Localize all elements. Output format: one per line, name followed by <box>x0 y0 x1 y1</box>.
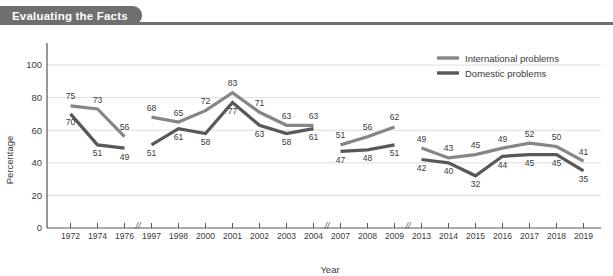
data-label: 40 <box>444 166 454 176</box>
data-label: 56 <box>120 122 130 132</box>
y-tick-label: 0 <box>37 222 42 233</box>
data-label: 47 <box>336 155 346 165</box>
x-tick-label: 2002 <box>250 231 269 241</box>
data-label: 73 <box>93 95 103 105</box>
x-tick-label: 2000 <box>196 231 215 241</box>
data-label: 35 <box>579 174 589 184</box>
data-label: 45 <box>552 158 562 168</box>
axis-break-mark: // <box>134 221 142 231</box>
data-label: 32 <box>471 179 481 189</box>
data-label: 61 <box>174 132 184 142</box>
data-label: 83 <box>228 78 238 88</box>
data-label: 49 <box>498 134 508 144</box>
data-label: 58 <box>201 137 211 147</box>
legend-label-domestic: Domestic problems <box>465 68 547 79</box>
x-tick-label: 1997 <box>142 231 161 241</box>
data-label: 77 <box>228 106 238 116</box>
chart-canvas: 020406080100 197219741976199719982000200… <box>0 25 613 276</box>
y-tick-label: 60 <box>31 125 42 136</box>
y-tick-label: 80 <box>31 92 42 103</box>
data-label: 52 <box>525 129 535 139</box>
y-tick-label: 40 <box>31 157 42 168</box>
y-axis-title: Percentage <box>4 136 15 185</box>
gridlines <box>47 65 601 195</box>
data-label: 72 <box>201 96 211 106</box>
x-tick-label: 1976 <box>115 231 134 241</box>
legend-label-international: International problems <box>465 53 559 64</box>
data-label: 65 <box>174 108 184 118</box>
data-label: 51 <box>93 148 103 158</box>
x-tick-label: 2016 <box>493 231 512 241</box>
data-label: 56 <box>363 122 373 132</box>
axis-break-mark: // <box>404 221 412 231</box>
data-label: 43 <box>444 143 454 153</box>
data-label: 49 <box>417 134 427 144</box>
axis-break-marks: ////// <box>134 221 412 231</box>
data-label: 63 <box>282 111 292 121</box>
x-tick-label: 2003 <box>277 231 296 241</box>
x-tick-label: 1998 <box>169 231 188 241</box>
y-axis-tick-labels: 020406080100 <box>26 59 42 233</box>
data-label: 62 <box>390 112 400 122</box>
data-label: 75 <box>66 91 76 101</box>
data-label: 50 <box>552 132 562 142</box>
header-banner: Evaluating the Facts <box>0 3 613 25</box>
x-tick-label: 2007 <box>331 231 350 241</box>
data-label: 44 <box>498 160 508 170</box>
data-label: 42 <box>417 163 427 173</box>
data-label: 49 <box>120 152 130 162</box>
y-tick-label: 20 <box>31 190 42 201</box>
x-tick-label: 2001 <box>223 231 242 241</box>
data-label: 41 <box>579 147 589 157</box>
data-label: 48 <box>363 153 373 163</box>
data-label: 51 <box>147 148 157 158</box>
x-tick-label: 2013 <box>412 231 431 241</box>
data-label: 51 <box>390 148 400 158</box>
y-tick-label: 100 <box>26 59 42 70</box>
x-tick-label: 1972 <box>61 231 80 241</box>
data-point-labels: 7573566865728371636351566249434549525041… <box>66 78 589 189</box>
x-tick-label: 2009 <box>385 231 404 241</box>
series-line-domestic <box>71 114 125 148</box>
series-line-domestic <box>341 145 395 152</box>
x-tick-label: 2014 <box>439 231 458 241</box>
data-label: 45 <box>471 140 481 150</box>
data-label: 61 <box>309 132 319 142</box>
data-label: 63 <box>309 111 319 121</box>
header-tab: Evaluating the Facts <box>0 6 142 25</box>
legend: International problemsDomestic problems <box>437 53 559 79</box>
x-tick-label: 2017 <box>520 231 539 241</box>
x-tick-label: 2004 <box>304 231 323 241</box>
data-label: 58 <box>282 137 292 147</box>
data-label: 68 <box>147 103 157 113</box>
data-label: 51 <box>336 130 346 140</box>
data-label: 63 <box>255 129 265 139</box>
x-axis-tick-labels: 1972197419761997199820002001200220032004… <box>61 231 593 241</box>
page-title: Evaluating the Facts <box>12 10 128 22</box>
axis-break-mark: // <box>323 221 331 231</box>
data-label: 70 <box>66 117 76 127</box>
line-chart: 020406080100 197219741976199719982000200… <box>0 25 613 276</box>
x-axis-title: Year <box>320 264 339 275</box>
data-label: 45 <box>525 158 535 168</box>
x-tick-label: 2008 <box>358 231 377 241</box>
x-tick-label: 2015 <box>466 231 485 241</box>
data-label: 71 <box>255 98 265 108</box>
x-tick-label: 1974 <box>88 231 107 241</box>
x-tick-label: 2019 <box>574 231 593 241</box>
x-tick-label: 2018 <box>547 231 566 241</box>
